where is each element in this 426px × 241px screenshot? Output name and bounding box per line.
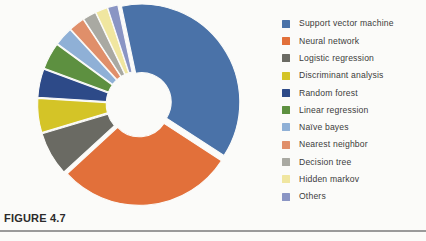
legend-item[interactable]: Hidden markov — [282, 171, 426, 188]
legend-swatch-icon — [282, 175, 290, 183]
pie-chart-area — [6, 2, 272, 207]
legend-item-label: Decision tree — [299, 158, 352, 167]
legend-item-label: Random forest — [299, 89, 358, 98]
legend-swatch-icon — [282, 89, 290, 97]
legend-swatch-icon — [282, 20, 290, 28]
legend-item-label: Nearest neighbor — [299, 140, 368, 149]
legend-swatch-icon — [282, 158, 290, 166]
legend-swatch-icon — [282, 106, 290, 114]
pie-chart-svg — [6, 2, 272, 207]
legend-swatch-icon — [282, 54, 290, 62]
legend-item-label: Discriminant analysis — [299, 71, 384, 80]
legend-item-label: Logistic regression — [299, 54, 374, 63]
legend-item[interactable]: Logistic regression — [282, 50, 426, 67]
legend-item[interactable]: Neural network — [282, 32, 426, 49]
legend-item-label: Neural network — [299, 37, 359, 46]
legend-swatch-icon — [282, 141, 290, 149]
legend-item-label: Others — [299, 192, 326, 201]
caption-divider — [0, 230, 426, 232]
figure-container: Support vector machine Neural network Lo… — [0, 0, 426, 241]
legend-item[interactable]: Naïve bayes — [282, 119, 426, 136]
pie-slice[interactable] — [121, 4, 239, 155]
legend-item[interactable]: Decision tree — [282, 153, 426, 170]
legend-item[interactable]: Support vector machine — [282, 15, 426, 32]
legend-swatch-icon — [282, 193, 290, 201]
pie-slice-group — [38, 4, 240, 205]
chart-legend: Support vector machine Neural network Lo… — [282, 15, 426, 205]
legend-item[interactable]: Discriminant analysis — [282, 67, 426, 84]
figure-caption-block: FIGURE 4.7 — [0, 212, 426, 232]
legend-swatch-icon — [282, 37, 290, 45]
figure-caption: FIGURE 4.7 — [0, 212, 426, 224]
legend-item[interactable]: Others — [282, 188, 426, 205]
legend-item-label: Naïve bayes — [299, 123, 349, 132]
legend-item-label: Hidden markov — [299, 175, 359, 184]
legend-swatch-icon — [282, 123, 290, 131]
legend-item-label: Linear regression — [299, 106, 368, 115]
legend-swatch-icon — [282, 72, 290, 80]
legend-item[interactable]: Random forest — [282, 84, 426, 101]
legend-item[interactable]: Nearest neighbor — [282, 136, 426, 153]
legend-item-label: Support vector machine — [299, 19, 394, 28]
legend-item[interactable]: Linear regression — [282, 101, 426, 118]
